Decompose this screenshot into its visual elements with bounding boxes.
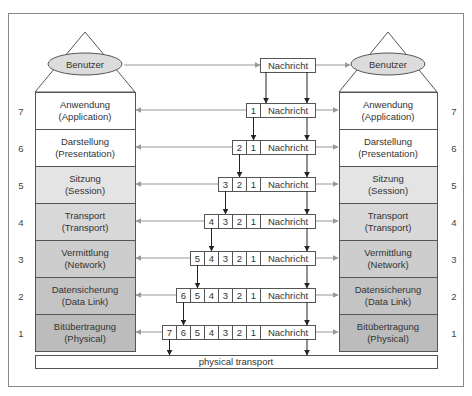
layer-number: 4 bbox=[451, 217, 456, 228]
message-label: Nachricht bbox=[268, 290, 308, 301]
layer-number: 6 bbox=[451, 143, 456, 154]
left-layer-5: Sitzung(Session)5 bbox=[18, 167, 135, 204]
right-stack: BenutzerAnwendung(Application)7Darstellu… bbox=[339, 32, 457, 352]
header-number: 4 bbox=[209, 253, 214, 264]
header-number: 6 bbox=[181, 327, 186, 338]
layer-name: Anwendung bbox=[60, 99, 110, 110]
packet-row-6: 654321Nachricht bbox=[136, 289, 338, 326]
layer-english-name: (Application) bbox=[362, 111, 415, 122]
layer-number: 2 bbox=[18, 291, 23, 302]
left-layer-2: Datensicherung(Data Link)2 bbox=[18, 278, 135, 315]
layer-number: 3 bbox=[18, 254, 23, 265]
layer-name: Transport bbox=[368, 210, 409, 221]
header-number: 5 bbox=[195, 253, 200, 264]
layer-number: 5 bbox=[18, 180, 23, 191]
layer-english-name: (Transport) bbox=[365, 222, 412, 233]
layer-english-name: (Presentation) bbox=[358, 148, 418, 159]
header-number: 2 bbox=[237, 142, 242, 153]
header-number: 6 bbox=[181, 290, 186, 301]
header-number: 1 bbox=[251, 290, 256, 301]
layer-number: 5 bbox=[451, 180, 456, 191]
layer-name: Bitübertragung bbox=[357, 321, 419, 332]
layer-english-name: (Physical) bbox=[64, 333, 106, 344]
layer-english-name: (Transport) bbox=[62, 222, 109, 233]
left-layer-3: Vermittlung(Network)3 bbox=[18, 241, 135, 278]
left-layer-4: Transport(Transport)4 bbox=[18, 204, 135, 241]
header-number: 4 bbox=[209, 327, 214, 338]
left-stack: BenutzerAnwendung(Application)7Darstellu… bbox=[18, 32, 135, 352]
packet-row-2: 21Nachricht bbox=[136, 141, 338, 178]
packet-row-3: 321Nachricht bbox=[136, 178, 338, 215]
layer-name: Transport bbox=[65, 210, 106, 221]
layer-name: Darstellung bbox=[61, 136, 109, 147]
layer-english-name: (Session) bbox=[65, 185, 105, 196]
layer-name: Bitübertragung bbox=[54, 321, 116, 332]
right-layer-5: Sitzung(Session)5 bbox=[340, 167, 457, 204]
left-layer-1: Bitübertragung(Physical)1 bbox=[18, 315, 135, 352]
message-label: Nachricht bbox=[268, 327, 308, 338]
packet-row-5: 54321Nachricht bbox=[136, 252, 338, 289]
layer-name: Vermittlung bbox=[364, 247, 412, 258]
header-number: 5 bbox=[195, 290, 200, 301]
right-layer-1: Bitübertragung(Physical)1 bbox=[340, 315, 457, 352]
layer-number: 3 bbox=[451, 254, 456, 265]
physical-transport-label: physical transport bbox=[199, 356, 274, 367]
packet-row-0: Nachricht bbox=[124, 59, 350, 104]
message-label: Nachricht bbox=[268, 142, 308, 153]
layer-number: 1 bbox=[451, 328, 456, 339]
layer-name: Vermittlung bbox=[61, 247, 109, 258]
layer-name: Sitzung bbox=[372, 173, 404, 184]
packet-column: Nachricht1Nachricht21Nachricht321Nachric… bbox=[124, 59, 350, 356]
layer-english-name: (Presentation) bbox=[55, 148, 115, 159]
layer-number: 2 bbox=[451, 291, 456, 302]
header-number: 2 bbox=[237, 290, 242, 301]
packet-row-1: 1Nachricht bbox=[136, 104, 338, 141]
header-number: 3 bbox=[223, 216, 228, 227]
message-label: Nachricht bbox=[268, 216, 308, 227]
header-number: 5 bbox=[195, 327, 200, 338]
packet-row-7: 7654321Nachricht bbox=[136, 326, 338, 356]
layer-name: Darstellung bbox=[364, 136, 412, 147]
layer-name: Datensicherung bbox=[355, 284, 422, 295]
header-number: 3 bbox=[223, 327, 228, 338]
layer-name: Datensicherung bbox=[52, 284, 119, 295]
header-number: 4 bbox=[209, 290, 214, 301]
right-layer-3: Vermittlung(Network)3 bbox=[340, 241, 457, 278]
right-layer-4: Transport(Transport)4 bbox=[340, 204, 457, 241]
right-layer-7: Anwendung(Application)7 bbox=[340, 93, 457, 130]
left-layer-7: Anwendung(Application)7 bbox=[18, 93, 135, 130]
layer-english-name: (Data Link) bbox=[365, 296, 411, 307]
layer-english-name: (Data Link) bbox=[62, 296, 108, 307]
layer-english-name: (Network) bbox=[64, 259, 105, 270]
header-number: 2 bbox=[237, 327, 242, 338]
layer-number: 7 bbox=[451, 106, 456, 117]
header-number: 1 bbox=[251, 179, 256, 190]
layer-name: Sitzung bbox=[69, 173, 101, 184]
header-number: 4 bbox=[209, 216, 214, 227]
header-number: 1 bbox=[251, 105, 256, 116]
left-layer-6: Darstellung(Presentation)6 bbox=[18, 130, 135, 167]
layer-english-name: (Session) bbox=[368, 185, 408, 196]
right-layer-2: Datensicherung(Data Link)2 bbox=[340, 278, 457, 315]
physical-transport-bar: physical transport bbox=[36, 356, 438, 369]
header-number: 1 bbox=[251, 142, 256, 153]
layer-name: Anwendung bbox=[363, 99, 413, 110]
right-layer-6: Darstellung(Presentation)6 bbox=[340, 130, 457, 167]
header-number: 1 bbox=[251, 216, 256, 227]
layer-number: 7 bbox=[18, 106, 23, 117]
header-number: 3 bbox=[223, 290, 228, 301]
header-number: 3 bbox=[223, 179, 228, 190]
header-number: 1 bbox=[251, 253, 256, 264]
layer-number: 1 bbox=[18, 328, 23, 339]
header-number: 2 bbox=[237, 179, 242, 190]
message-label: Nachricht bbox=[268, 253, 308, 264]
osi-model-diagram: BenutzerAnwendung(Application)7Darstellu… bbox=[0, 0, 472, 396]
header-number: 7 bbox=[167, 327, 172, 338]
layer-english-name: (Network) bbox=[367, 259, 408, 270]
layer-english-name: (Application) bbox=[59, 111, 112, 122]
message-label: Nachricht bbox=[268, 105, 308, 116]
header-number: 1 bbox=[251, 327, 256, 338]
message-label: Nachricht bbox=[268, 60, 308, 71]
layer-number: 6 bbox=[18, 143, 23, 154]
packet-row-4: 4321Nachricht bbox=[136, 215, 338, 252]
